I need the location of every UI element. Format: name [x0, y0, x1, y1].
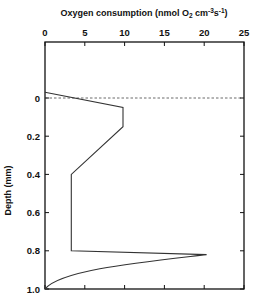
y-tick-label: 0.2	[27, 131, 40, 142]
y-tick-label: 0.8	[27, 245, 40, 256]
x-tick-label: 10	[119, 27, 130, 38]
y-tick-label: 0	[35, 93, 40, 104]
x-axis-title: Oxygen consumption (nmol O2 cm-3s-1)	[60, 7, 227, 20]
x-tick-label: 0	[42, 27, 47, 38]
y-tick-label: 0.6	[27, 207, 40, 218]
x-tick-label: 25	[239, 27, 250, 38]
y-tick-label: 0.4	[27, 169, 41, 180]
consumption-profile-line	[45, 92, 207, 289]
y-tick-label: 1.0	[27, 284, 40, 295]
x-tick-label: 5	[82, 27, 88, 38]
oxygen-consumption-chart: 051015202500.20.40.60.81.0Oxygen consump…	[0, 0, 261, 301]
x-tick-label: 15	[159, 27, 170, 38]
x-tick-label: 20	[199, 27, 210, 38]
y-axis-title: Depth (mm)	[3, 166, 13, 216]
plot-frame	[45, 42, 244, 289]
